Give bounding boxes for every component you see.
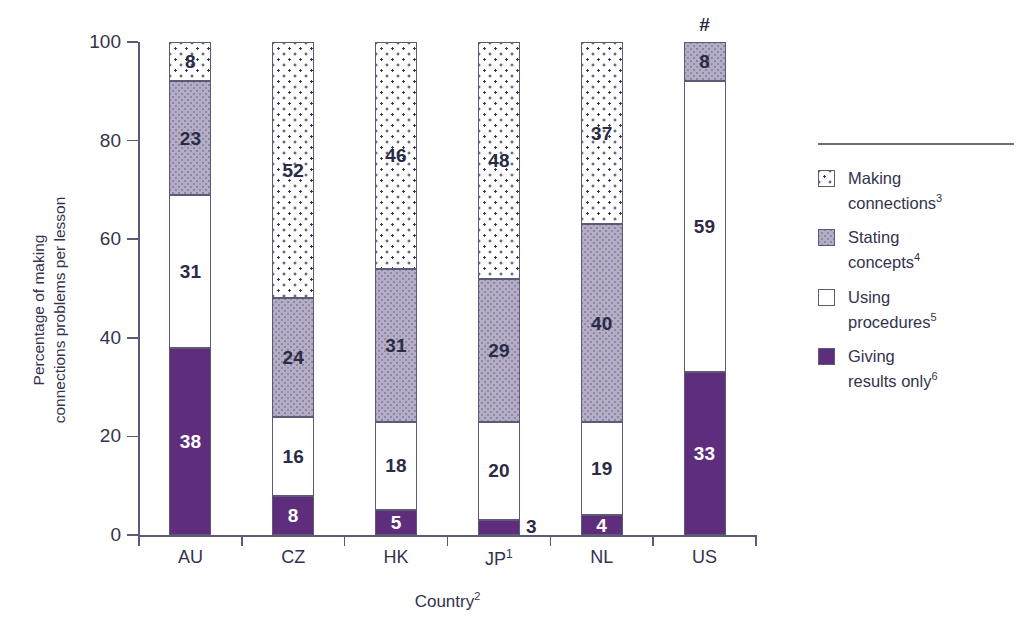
bar-segment-nl-using-procedures[interactable]: 19 bbox=[581, 422, 623, 516]
bar-segment-hk-making-connections[interactable]: 46 bbox=[375, 42, 417, 269]
y-axis-tick-label: 40 bbox=[100, 327, 121, 349]
bar-segment-value: 59 bbox=[694, 217, 716, 236]
y-axis-tick-label: 60 bbox=[100, 228, 121, 250]
y-axis-tick bbox=[127, 238, 138, 240]
legend-divider bbox=[818, 143, 1014, 145]
x-axis-tick bbox=[447, 535, 449, 546]
y-axis-tick bbox=[127, 534, 138, 536]
bar-segment-value: 8 bbox=[288, 506, 299, 525]
bar-segment-au-making-connections[interactable]: 8 bbox=[169, 42, 211, 81]
y-axis-tick-label: 100 bbox=[89, 31, 121, 53]
x-axis-tick bbox=[138, 535, 140, 546]
bar-segment-nl-stating-concepts[interactable]: 40 bbox=[581, 224, 623, 421]
legend-item-making-connections[interactable]: Makingconnections3 bbox=[818, 168, 1018, 213]
y-axis-tick bbox=[127, 337, 138, 339]
bar-segment-hk-stating-concepts[interactable]: 31 bbox=[375, 269, 417, 422]
legend-label: Givingresults only6 bbox=[848, 346, 938, 391]
bar-jp[interactable]: 3202948 bbox=[478, 42, 520, 535]
bar-segment-value: 3 bbox=[526, 517, 537, 536]
bar-segment-jp-making-connections[interactable]: 48 bbox=[478, 42, 520, 279]
legend-label: Statingconcepts4 bbox=[848, 227, 920, 272]
x-axis-tick-label-hk: HK bbox=[384, 547, 409, 568]
legend-label: Usingprocedures5 bbox=[848, 287, 937, 332]
legend-item-giving-results-only[interactable]: Givingresults only6 bbox=[818, 346, 1018, 391]
bar-segment-value: 31 bbox=[385, 336, 407, 355]
bar-segment-value: 29 bbox=[488, 341, 510, 360]
legend-label: Makingconnections3 bbox=[848, 168, 942, 213]
x-axis-tick-label-nl: NL bbox=[590, 547, 613, 568]
bar-segment-value: 40 bbox=[591, 314, 613, 333]
bar-segment-value: 16 bbox=[282, 447, 304, 466]
y-axis-tick bbox=[127, 140, 138, 142]
x-axis-tick bbox=[550, 535, 552, 546]
legend-swatch-icon bbox=[818, 229, 835, 246]
bar-hk[interactable]: 5183146 bbox=[375, 42, 417, 535]
bar-segment-cz-making-connections[interactable]: 52 bbox=[272, 42, 314, 298]
legend-items: Makingconnections3Statingconcepts4Usingp… bbox=[818, 168, 1018, 391]
x-axis-title: Country2 bbox=[139, 590, 756, 612]
y-axis-tick-label: 80 bbox=[100, 130, 121, 152]
bar-segment-cz-giving-results-only[interactable]: 8 bbox=[272, 496, 314, 535]
y-axis-line bbox=[138, 42, 140, 535]
bar-segment-value: 48 bbox=[488, 151, 510, 170]
x-axis-tick bbox=[652, 535, 654, 546]
bar-segment-value: 24 bbox=[282, 348, 304, 367]
bar-segment-value: 8 bbox=[699, 52, 710, 71]
x-axis-tick-label-jp: JP1 bbox=[485, 547, 513, 570]
bar-segment-value: 5 bbox=[391, 513, 402, 532]
bar-segment-hk-giving-results-only[interactable]: 5 bbox=[375, 510, 417, 535]
bar-cz[interactable]: 8162452 bbox=[272, 42, 314, 535]
legend-item-using-procedures[interactable]: Usingprocedures5 bbox=[818, 287, 1018, 332]
y-axis-tick-label: 20 bbox=[100, 425, 121, 447]
y-axis-title: Percentage of making connections problem… bbox=[26, 120, 72, 500]
y-axis-tick bbox=[127, 41, 138, 43]
bar-segment-jp-giving-results-only[interactable]: 3 bbox=[478, 520, 520, 535]
bar-segment-au-stating-concepts[interactable]: 23 bbox=[169, 81, 211, 194]
x-axis-tick bbox=[344, 535, 346, 546]
x-axis-tick-label-us: US bbox=[692, 547, 717, 568]
bar-segment-us-giving-results-only[interactable]: 33 bbox=[684, 372, 726, 535]
y-axis-tick-label: 0 bbox=[110, 524, 121, 546]
y-axis-title-line-1: Percentage of making bbox=[30, 235, 47, 386]
bar-segment-us-using-procedures[interactable]: 59 bbox=[684, 81, 726, 372]
bar-segment-value: 4 bbox=[596, 516, 607, 535]
bar-segment-hk-using-procedures[interactable]: 18 bbox=[375, 422, 417, 511]
bar-segment-value: 20 bbox=[488, 461, 510, 480]
legend-swatch-icon bbox=[818, 289, 835, 306]
bar-segment-value: 46 bbox=[385, 146, 407, 165]
bar-segment-nl-making-connections[interactable]: 37 bbox=[581, 42, 623, 224]
x-axis-tick-label-au: AU bbox=[178, 547, 203, 568]
bar-us[interactable]: 33598# bbox=[684, 42, 726, 535]
bar-segment-au-using-procedures[interactable]: 31 bbox=[169, 195, 211, 348]
bar-segment-us-stating-concepts[interactable]: 8 bbox=[684, 42, 726, 81]
bar-segment-value: 23 bbox=[180, 129, 202, 148]
legend-swatch-icon bbox=[818, 348, 835, 365]
bar-segment-jp-using-procedures[interactable]: 20 bbox=[478, 422, 520, 521]
bar-segment-au-giving-results-only[interactable]: 38 bbox=[169, 348, 211, 535]
x-axis-tick-label-cz: CZ bbox=[281, 547, 305, 568]
bar-segment-value: 19 bbox=[591, 459, 613, 478]
bar-segment-value: 18 bbox=[385, 456, 407, 475]
stacked-bar-chart: Percentage of making connections problem… bbox=[0, 0, 1031, 625]
x-axis-tick bbox=[755, 535, 757, 546]
bar-nl[interactable]: 4194037 bbox=[581, 42, 623, 535]
x-axis-tick bbox=[241, 535, 243, 546]
bar-segment-value: 52 bbox=[282, 161, 304, 180]
bar-segment-value: 33 bbox=[694, 444, 716, 463]
bar-segment-nl-giving-results-only[interactable]: 4 bbox=[581, 515, 623, 535]
bar-segment-cz-using-procedures[interactable]: 16 bbox=[272, 417, 314, 496]
bar-segment-jp-stating-concepts[interactable]: 29 bbox=[478, 279, 520, 422]
y-axis-tick bbox=[127, 436, 138, 438]
bar-annotation-us: # bbox=[699, 14, 710, 36]
legend-item-stating-concepts[interactable]: Statingconcepts4 bbox=[818, 227, 1018, 272]
bar-segment-value: 37 bbox=[591, 124, 613, 143]
bar-segment-cz-stating-concepts[interactable]: 24 bbox=[272, 298, 314, 416]
bar-segment-value: 38 bbox=[180, 432, 202, 451]
plot-area: 020406080100 AUCZHKJP1NLUS 3831238816245… bbox=[139, 42, 756, 535]
bar-segment-value: 8 bbox=[185, 52, 196, 71]
bar-segment-value: 31 bbox=[180, 262, 202, 281]
legend: Makingconnections3Statingconcepts4Usingp… bbox=[818, 143, 1018, 406]
legend-swatch-icon bbox=[818, 170, 835, 187]
y-axis-title-line-2: connections problems per lesson bbox=[51, 197, 68, 424]
bar-au[interactable]: 3831238 bbox=[169, 42, 211, 535]
